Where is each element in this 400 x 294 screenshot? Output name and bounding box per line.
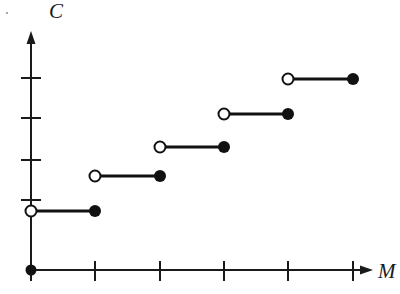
open-endpoint-marker xyxy=(90,171,101,182)
open-endpoint-marker xyxy=(283,74,294,85)
step-segment-4 xyxy=(219,108,295,120)
origin-point-marker xyxy=(26,265,37,276)
closed-endpoint-marker xyxy=(347,73,359,85)
step-function-figure: C M xyxy=(0,0,400,294)
closed-endpoint-marker xyxy=(154,170,166,182)
closed-endpoint-marker xyxy=(218,141,230,153)
axes-group xyxy=(27,31,374,275)
step-segment-1 xyxy=(26,205,102,217)
open-endpoint-marker xyxy=(26,206,37,217)
step-segment-3 xyxy=(155,141,231,153)
open-endpoint-marker xyxy=(219,109,230,120)
open-endpoint-marker xyxy=(155,142,166,153)
step-segment-5 xyxy=(283,73,360,85)
step-function-series xyxy=(26,73,360,276)
closed-endpoint-marker xyxy=(282,108,294,120)
plot-area xyxy=(0,0,400,294)
y-axis-arrow-icon xyxy=(27,31,36,44)
closed-endpoint-marker xyxy=(89,205,101,217)
x-axis-arrow-icon xyxy=(360,266,373,275)
step-segment-2 xyxy=(90,170,167,182)
